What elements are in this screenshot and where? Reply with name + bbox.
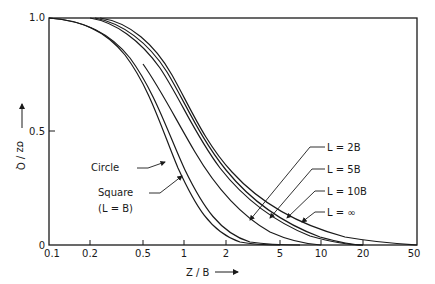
x-tick-label: 1	[181, 248, 187, 259]
curve-circle	[49, 18, 280, 245]
curve-square	[49, 18, 300, 245]
annotation-linf: L = ∞	[327, 207, 356, 218]
curve-l10b	[95, 18, 363, 245]
annotation-l5b: L = 5B	[327, 164, 361, 175]
annotation-l10b: L = 10B	[327, 186, 367, 197]
x-tick-label: 20	[357, 248, 370, 259]
x-axis-label: Z / B	[186, 267, 210, 278]
annotation-l2b: L = 2B	[327, 142, 361, 153]
x-tick-label: 2	[223, 248, 229, 259]
y-axis-label: σz / Q	[15, 141, 26, 170]
x-axis: 0.1 0.2 0.5 1 2 5 10 20 50 Z / B	[44, 240, 420, 278]
x-tick-label: 50	[408, 248, 421, 259]
annotation-square: Square	[98, 187, 133, 198]
y-tick-label: 0.5	[29, 126, 45, 137]
x-tick-label: 0.2	[82, 248, 98, 259]
x-tick-label: 5	[277, 248, 283, 259]
annotation-circle: Circle	[91, 162, 119, 173]
chart: 1.0 0.5 0 σz / Q 0.1 0.2 0.5 1 2 5 10 20…	[0, 0, 435, 284]
x-tick-label: 10	[315, 248, 328, 259]
x-tick-label: 0.1	[44, 248, 60, 259]
y-tick-label: 1.0	[29, 12, 45, 23]
x-tick-label: 0.5	[135, 248, 151, 259]
annotation-square-sub: (L = B)	[98, 203, 133, 214]
annotations: Circle Square (L = B) L = 2B L = 5B L = …	[91, 142, 367, 222]
